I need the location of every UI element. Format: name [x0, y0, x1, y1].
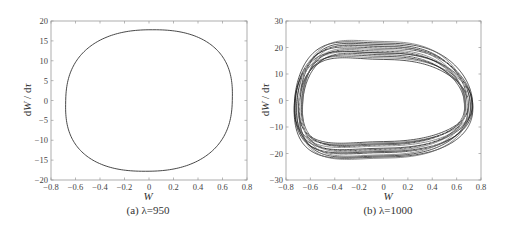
x-tick-label: 0.2: [403, 182, 414, 192]
y-tick-label: 5: [44, 76, 48, 86]
x-axis-label-b: W: [378, 190, 398, 202]
caption-b: (b) λ=1000: [338, 204, 438, 216]
x-tick-label: 0.4: [427, 182, 438, 192]
orbit-curve: [301, 48, 466, 151]
y-tick-label: −10: [270, 122, 283, 132]
y-tick-label: 0: [279, 96, 283, 106]
orbit-highlight: [299, 54, 467, 147]
orbit-curve: [295, 47, 472, 153]
phase-portrait-a: −0.8−0.6−0.4−0.200.20.40.60.8−20−15−10−5…: [0, 0, 254, 231]
y-tick-label: −15: [35, 155, 48, 165]
x-tick-label: −0.2: [351, 182, 366, 192]
x-tick-label: 0.4: [193, 182, 204, 192]
orbit-curve: [294, 56, 473, 144]
y-tick-label: 0: [44, 96, 48, 106]
y-tick-label: −10: [35, 135, 48, 145]
y-tick-label: 10: [275, 69, 284, 79]
x-tick-label: 0.6: [217, 182, 228, 192]
y-tick-label: 15: [40, 36, 49, 46]
x-tick-label: −0.4: [92, 182, 108, 192]
y-tick-label: −20: [35, 175, 48, 185]
plot-frame: [51, 21, 247, 180]
y-tick-label: −5: [39, 115, 48, 125]
chart-panel-a: −0.8−0.6−0.4−0.200.20.40.60.8−20−15−10−5…: [0, 0, 254, 231]
orbit-curve: [301, 50, 465, 151]
orbit-curve: [298, 58, 468, 143]
chart-panel-b: −0.8−0.6−0.4−0.200.20.40.60.8−30−20−1001…: [254, 0, 508, 231]
y-axis-label-b: dW / dτ: [259, 75, 271, 125]
x-tick-label: 0.2: [168, 182, 179, 192]
x-tick-label: −0.4: [327, 182, 343, 192]
y-tick-label: 20: [40, 16, 49, 26]
x-tick-label: 0.8: [476, 182, 487, 192]
x-tick-label: 0.8: [242, 182, 253, 192]
x-tick-label: −0.2: [117, 182, 132, 192]
orbit-curve: [295, 51, 472, 149]
x-tick-label: −0.6: [303, 182, 318, 192]
y-tick-label: −20: [270, 149, 283, 159]
y-tick-label: 10: [40, 56, 49, 66]
y-tick-label: 30: [275, 16, 284, 26]
y-axis-label-a: dW / dτ: [21, 75, 33, 125]
caption-a: (a) λ=950: [98, 204, 198, 216]
orbit-curve: [66, 30, 233, 172]
x-axis-label-a: W: [138, 190, 158, 202]
x-tick-label: 0.6: [451, 182, 462, 192]
x-tick-label: −0.6: [68, 182, 83, 192]
y-tick-label: 20: [275, 43, 284, 53]
y-tick-label: −30: [270, 175, 283, 185]
